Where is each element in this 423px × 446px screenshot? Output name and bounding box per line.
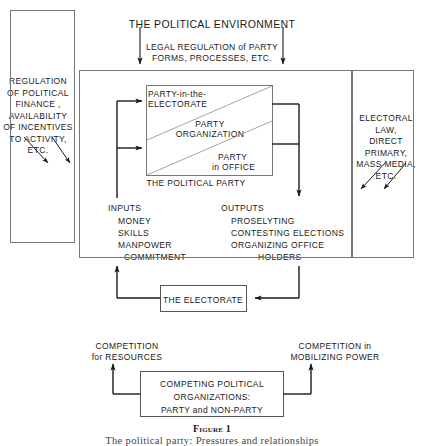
- party-box: [147, 86, 273, 176]
- party-divider-lower: [147, 121, 272, 175]
- center-system-box: [80, 71, 352, 258]
- electorate-box: [161, 286, 247, 312]
- right-panel-box: [353, 71, 414, 258]
- right-panel-arrow-1: [361, 163, 385, 189]
- left-panel-arrow-2: [52, 137, 70, 163]
- right-panel-arrow-2: [384, 163, 406, 189]
- party-divider-upper: [147, 86, 272, 140]
- competing-organizations-box: [141, 372, 284, 417]
- left-panel-box: [11, 11, 75, 243]
- left-panel-arrow-1: [24, 137, 48, 163]
